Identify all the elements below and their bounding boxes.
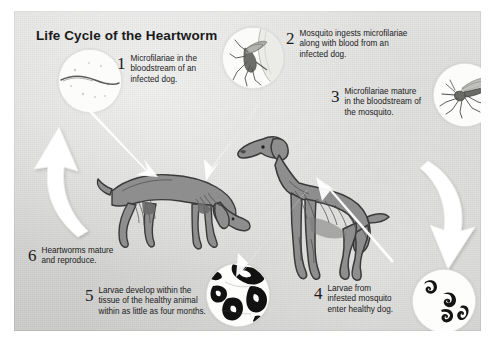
step-1-number: 1 bbox=[117, 55, 126, 72]
poster-panel: Life Cycle of the Heartworm bbox=[14, 11, 481, 331]
step-3-number: 3 bbox=[331, 88, 340, 105]
step-2-text: Mosquito ingests microfilariae along wit… bbox=[300, 29, 408, 60]
mosquito-biting-skin-circle-icon bbox=[222, 27, 284, 89]
step-1-text: Microfilariae in the bloodstream of an i… bbox=[131, 54, 197, 85]
step-6: 6 Heartworms mature and reproduce. bbox=[28, 246, 148, 267]
poster-image: Life Cycle of the Heartworm bbox=[0, 0, 495, 354]
cycle-arrow-right-icon bbox=[406, 159, 478, 271]
larvae-circle-icon bbox=[412, 269, 476, 331]
step-1: 1 Microfilariae in the bloodstream of an… bbox=[117, 54, 213, 85]
step-4: 4 Larvae from infested mosquito enter he… bbox=[314, 284, 414, 315]
step-4-number: 4 bbox=[314, 285, 323, 302]
infected-dog-illustration bbox=[92, 153, 252, 255]
step-3: 3 Microfilariae mature in the bloodstrea… bbox=[331, 87, 436, 118]
cycle-arrow-left-icon bbox=[26, 123, 98, 241]
step-3-text: Microfilariae mature in the bloodstream … bbox=[345, 87, 421, 118]
step-4-text: Larvae from infested mosquito enter heal… bbox=[328, 284, 394, 315]
step-5-number: 5 bbox=[85, 287, 94, 304]
step-5-text: Larvae develop within the tissue of the … bbox=[99, 286, 206, 317]
step-6-text: Heartworms mature and reproduce. bbox=[42, 246, 114, 267]
healthy-dog-illustration bbox=[229, 121, 394, 296]
microfilaria-in-blood-circle-icon bbox=[58, 49, 122, 113]
mosquito-circle-icon bbox=[433, 63, 481, 127]
step-2: 2 Mosquito ingests microfilariae along w… bbox=[286, 29, 436, 60]
step-2-number: 2 bbox=[286, 30, 295, 47]
step-6-number: 6 bbox=[28, 247, 37, 264]
step-5: 5 Larvae develop within the tissue of th… bbox=[85, 286, 235, 317]
page-title: Life Cycle of the Heartworm bbox=[36, 28, 217, 43]
